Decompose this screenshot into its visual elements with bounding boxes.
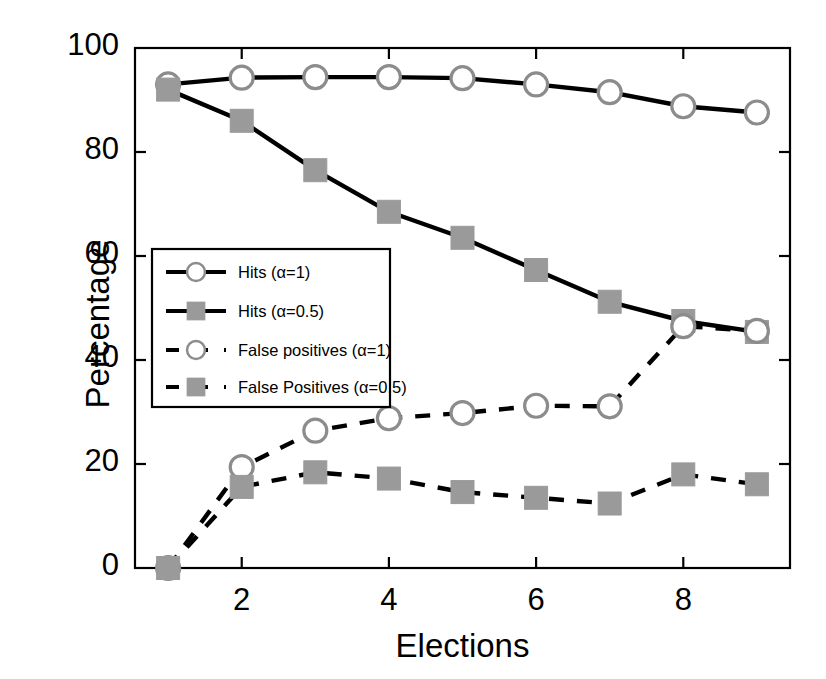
x-tick-label: 4 <box>359 582 419 618</box>
x-axis-title: Elections <box>396 627 530 664</box>
x-tick-label: 2 <box>212 582 272 618</box>
data-point-square <box>377 200 400 223</box>
data-point-circle <box>377 66 400 89</box>
data-point-circle <box>304 419 327 442</box>
data-point-square <box>187 378 205 396</box>
data-point-circle <box>745 101 768 124</box>
x-axis-title-wrap: Elections <box>135 627 790 665</box>
data-point-square <box>304 461 327 484</box>
y-tick-label: 40 <box>9 339 119 375</box>
data-point-circle <box>598 395 621 418</box>
data-point-square <box>451 226 474 249</box>
data-point-circle <box>672 315 695 338</box>
chart-legend: Hits (α=1)Hits (α=0.5)False positives (α… <box>152 249 407 407</box>
chart-figure: Hits (α=1)Hits (α=0.5)False positives (α… <box>0 0 826 679</box>
y-tick-label: 0 <box>9 547 119 583</box>
y-tick-label: 20 <box>9 443 119 479</box>
y-axis-title-wrap: Percentage <box>79 174 117 474</box>
legend-label: Hits (α=0.5) <box>238 302 324 320</box>
data-point-circle <box>377 407 400 430</box>
y-tick-label: 60 <box>9 235 119 271</box>
data-point-square <box>304 159 327 182</box>
data-point-square <box>157 557 180 580</box>
data-point-circle <box>451 402 474 425</box>
data-point-circle <box>451 67 474 90</box>
legend-label: Hits (α=1) <box>238 263 310 281</box>
chart-plot-area: Hits (α=1)Hits (α=0.5)False positives (α… <box>0 0 826 679</box>
data-point-square <box>451 481 474 504</box>
y-tick-label: 100 <box>9 27 119 63</box>
legend-label: False positives (α=1) <box>238 341 391 359</box>
data-point-circle <box>745 319 768 342</box>
data-point-square <box>525 259 548 282</box>
data-point-square <box>230 475 253 498</box>
data-point-circle <box>598 81 621 104</box>
data-point-square <box>525 486 548 509</box>
data-point-square <box>187 302 205 320</box>
data-point-circle <box>304 66 327 89</box>
x-tick-label: 8 <box>653 582 713 618</box>
data-point-square <box>598 492 621 515</box>
data-point-circle <box>187 341 205 359</box>
data-point-square <box>377 467 400 490</box>
data-point-circle <box>230 66 253 89</box>
x-tick-label: 6 <box>506 582 566 618</box>
legend-label: False Positives (α=0.5) <box>238 378 407 396</box>
data-point-square <box>598 290 621 313</box>
data-point-circle <box>187 263 205 281</box>
data-point-square <box>157 78 180 101</box>
data-point-square <box>672 463 695 486</box>
data-point-square <box>745 473 768 496</box>
data-point-circle <box>672 95 695 118</box>
data-point-circle <box>525 394 548 417</box>
y-tick-label: 80 <box>9 131 119 167</box>
data-point-circle <box>525 73 548 96</box>
data-point-square <box>230 109 253 132</box>
